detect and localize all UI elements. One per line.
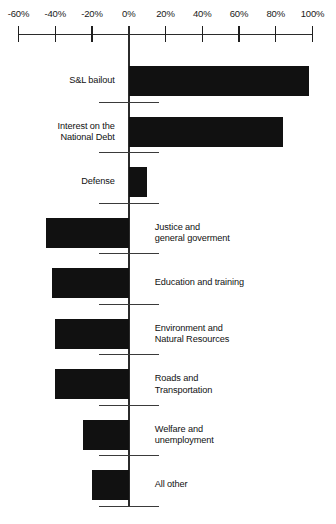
bar-category-label: Education and training xyxy=(155,278,332,289)
bar-category-label: Justice and general goverment xyxy=(155,221,332,244)
bar xyxy=(55,319,129,349)
plot-area: S&L bailoutInterest on the National Debt… xyxy=(0,0,336,524)
bar xyxy=(92,470,129,500)
row-separator-tick xyxy=(99,506,159,507)
row-separator-tick xyxy=(99,253,159,254)
bar-category-label: S&L bailout xyxy=(0,76,115,87)
bar xyxy=(83,420,129,450)
bar-category-label: All other xyxy=(155,480,332,491)
bar-category-label: Defense xyxy=(0,177,115,188)
bar xyxy=(129,66,309,96)
bar xyxy=(129,167,147,197)
row-separator-tick xyxy=(99,102,159,103)
bar xyxy=(46,218,129,248)
bar-category-label: Welfare and unemployment xyxy=(155,423,332,446)
row-separator-tick xyxy=(99,354,159,355)
bar-chart: -60%-40%-20%0%20%40%60%80%100% S&L bailo… xyxy=(0,0,336,524)
row-separator-tick xyxy=(99,405,159,406)
bar xyxy=(55,369,129,399)
bar-category-label: Roads and Transportation xyxy=(155,373,332,396)
bar xyxy=(52,268,129,298)
row-separator-tick xyxy=(99,304,159,305)
row-separator-tick xyxy=(99,203,159,204)
bar xyxy=(129,117,283,147)
bar-category-label: Interest on the National Debt xyxy=(0,120,115,143)
row-separator-tick xyxy=(99,455,159,456)
bar-category-label: Environment and Natural Resources xyxy=(155,322,332,345)
row-separator-tick xyxy=(99,152,159,153)
